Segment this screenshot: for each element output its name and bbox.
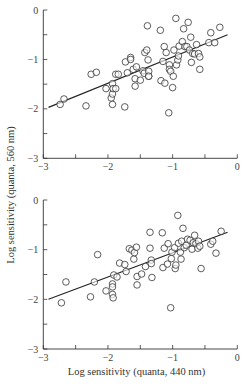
data-point bbox=[196, 243, 203, 250]
data-point bbox=[110, 295, 117, 302]
data-point bbox=[149, 274, 156, 281]
data-point bbox=[109, 101, 116, 108]
data-point bbox=[188, 59, 195, 66]
data-point bbox=[170, 73, 177, 80]
data-point bbox=[213, 250, 220, 257]
data-point bbox=[207, 29, 214, 36]
data-point bbox=[114, 274, 121, 281]
data-point bbox=[61, 96, 68, 103]
data-point bbox=[209, 238, 216, 245]
data-point bbox=[127, 56, 134, 63]
y-tick-label: −3 bbox=[28, 153, 39, 164]
data-point bbox=[147, 229, 154, 236]
data-point bbox=[133, 244, 140, 251]
data-point bbox=[198, 265, 205, 272]
data-point bbox=[58, 300, 65, 307]
data-point bbox=[193, 41, 200, 48]
data-point bbox=[91, 279, 98, 286]
y-axis-label: Log sensitivity (quanta, 560 nm) bbox=[5, 105, 19, 285]
data-point bbox=[132, 83, 139, 90]
data-point bbox=[133, 64, 140, 71]
data-point bbox=[63, 279, 70, 286]
data-point bbox=[185, 19, 192, 26]
data-point bbox=[109, 284, 116, 291]
figure: 0−1−2−3−3−2−10 0−1−2−3−3−2−10 bbox=[0, 0, 243, 390]
x-tick-label: −1 bbox=[167, 161, 178, 172]
data-point bbox=[163, 49, 170, 56]
data-point bbox=[134, 282, 141, 289]
data-point bbox=[169, 84, 176, 91]
data-point bbox=[87, 294, 94, 301]
data-point bbox=[138, 271, 145, 278]
data-point bbox=[180, 225, 187, 232]
y-tick-label: −1 bbox=[28, 244, 39, 255]
data-point bbox=[175, 212, 182, 219]
data-point bbox=[180, 25, 187, 32]
data-point bbox=[83, 103, 90, 110]
data-point bbox=[175, 53, 182, 60]
data-point bbox=[115, 71, 122, 78]
data-point bbox=[162, 80, 169, 87]
data-point bbox=[165, 240, 172, 247]
x-axis-label: Log sensitivity (quanta, 440 nm) bbox=[0, 366, 243, 377]
data-point bbox=[196, 54, 203, 61]
y-tick-label: 0 bbox=[33, 5, 38, 16]
y-tick-label: −2 bbox=[28, 294, 39, 305]
y-tick-label: 0 bbox=[33, 195, 38, 206]
y-tick-label: −2 bbox=[28, 103, 39, 114]
data-point bbox=[191, 232, 198, 239]
data-point bbox=[94, 251, 101, 258]
data-point bbox=[167, 304, 174, 311]
data-point bbox=[168, 255, 175, 262]
data-point bbox=[121, 261, 128, 268]
data-point bbox=[145, 73, 152, 80]
data-point bbox=[103, 85, 110, 92]
data-point bbox=[218, 228, 225, 235]
x-tick-label: 0 bbox=[235, 161, 240, 172]
data-point bbox=[211, 39, 218, 46]
data-point bbox=[159, 229, 166, 236]
data-point bbox=[157, 27, 164, 34]
data-point bbox=[165, 110, 172, 117]
data-point bbox=[148, 260, 155, 267]
bottom-scatter-plot: 0−1−2−3−3−2−10 bbox=[28, 195, 240, 364]
data-point bbox=[217, 24, 224, 31]
data-point bbox=[173, 262, 180, 269]
x-tick-label: −3 bbox=[38, 352, 49, 363]
top-scatter-plot: 0−1−2−3−3−2−10 bbox=[28, 5, 240, 173]
data-point bbox=[131, 256, 138, 263]
data-point bbox=[123, 268, 130, 275]
data-point bbox=[143, 47, 150, 54]
data-point bbox=[121, 104, 128, 111]
y-tick-label: −3 bbox=[28, 344, 39, 355]
data-point bbox=[93, 69, 100, 76]
data-point bbox=[147, 245, 154, 252]
data-point bbox=[196, 66, 203, 73]
data-point bbox=[178, 256, 185, 263]
data-point bbox=[144, 23, 151, 30]
x-tick-label: −2 bbox=[103, 161, 114, 172]
data-point bbox=[103, 288, 110, 295]
data-point bbox=[145, 57, 152, 64]
data-point bbox=[160, 58, 167, 65]
data-point bbox=[173, 15, 180, 22]
data-point bbox=[112, 85, 119, 92]
y-tick-label: −1 bbox=[28, 54, 39, 65]
data-point bbox=[187, 34, 194, 41]
x-tick-label: −1 bbox=[167, 352, 178, 363]
x-tick-label: −3 bbox=[38, 161, 49, 172]
data-point bbox=[137, 77, 144, 84]
x-tick-label: 0 bbox=[235, 352, 240, 363]
x-tick-label: −2 bbox=[103, 352, 114, 363]
